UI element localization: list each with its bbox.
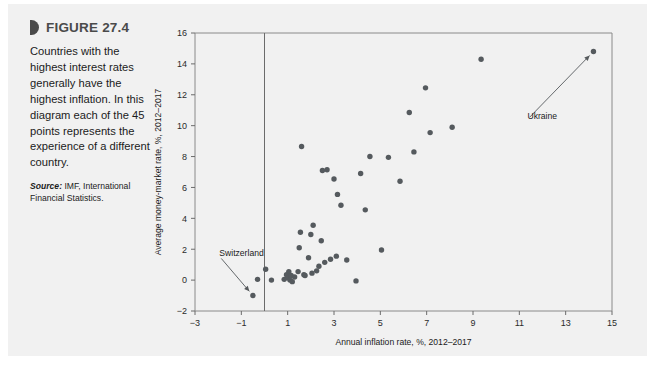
data-point	[308, 232, 313, 237]
data-point	[591, 49, 596, 54]
data-point	[338, 203, 343, 208]
data-point	[322, 260, 327, 265]
data-point	[263, 267, 268, 272]
data-point	[411, 149, 416, 154]
data-point	[335, 192, 340, 197]
ukraine-annotation-leader	[530, 55, 590, 117]
scatter-plot-svg: −3−113579111315−20246810121416Annual inf…	[8, 4, 647, 356]
data-point	[306, 255, 311, 260]
data-point	[353, 278, 358, 283]
figure-card: FIGURE 27.4 Countries with the highest i…	[8, 4, 647, 356]
y-tick-label-3: 4	[182, 214, 187, 224]
ukraine-annotation-label: Ukraine	[527, 111, 557, 121]
x-tick-label-1: −1	[236, 318, 246, 328]
data-point	[255, 277, 260, 282]
data-point	[299, 144, 304, 149]
data-point	[358, 171, 363, 176]
data-point	[250, 293, 255, 298]
data-point	[363, 207, 368, 212]
y-axis-title: Average money-market rate, %, 2012–2017	[153, 89, 163, 256]
y-tick-label-7: 12	[177, 90, 187, 100]
data-point	[331, 176, 336, 181]
data-point	[316, 264, 321, 269]
x-tick-label-9: 15	[607, 318, 617, 328]
data-point	[320, 168, 325, 173]
data-point	[297, 245, 302, 250]
y-tick-label-0: −2	[177, 306, 187, 316]
data-point	[302, 273, 307, 278]
data-point	[423, 85, 428, 90]
data-point	[449, 125, 454, 130]
y-tick-label-5: 8	[182, 152, 187, 162]
data-point	[344, 257, 349, 262]
data-point	[328, 257, 333, 262]
data-point	[295, 269, 300, 274]
y-tick-label-9: 16	[177, 28, 187, 38]
y-tick-label-6: 10	[177, 121, 187, 131]
x-tick-label-4: 5	[378, 318, 383, 328]
data-point	[269, 277, 274, 282]
scatter-chart: −3−113579111315−20246810121416Annual inf…	[8, 4, 647, 356]
x-tick-label-5: 7	[424, 318, 429, 328]
data-point	[310, 223, 315, 228]
switzerland-annotation-leader	[221, 258, 249, 291]
data-point	[367, 154, 372, 159]
data-point	[324, 167, 329, 172]
data-point	[290, 279, 295, 284]
data-point	[298, 230, 303, 235]
x-tick-label-0: −3	[190, 318, 200, 328]
x-axis-title: Annual inflation rate, %, 2012–2017	[335, 337, 471, 347]
plot-frame	[195, 33, 612, 311]
switzerland-annotation-label: Switzerland	[219, 248, 264, 258]
x-tick-label-7: 11	[515, 318, 524, 328]
x-tick-label-8: 13	[561, 318, 571, 328]
data-point	[427, 130, 432, 135]
x-tick-label-3: 3	[331, 318, 336, 328]
y-tick-label-4: 6	[182, 183, 187, 193]
data-point	[386, 155, 391, 160]
data-point	[407, 110, 412, 115]
x-tick-label-6: 9	[470, 318, 475, 328]
x-tick-label-2: 1	[285, 318, 290, 328]
data-point	[309, 270, 314, 275]
data-point	[319, 238, 324, 243]
data-point	[397, 179, 402, 184]
data-point	[379, 247, 384, 252]
y-tick-label-2: 2	[182, 245, 187, 255]
y-tick-label-8: 14	[177, 59, 187, 69]
data-point	[292, 274, 297, 279]
data-point	[334, 253, 339, 258]
y-tick-label-1: 0	[182, 275, 187, 285]
data-point	[314, 268, 319, 273]
data-point	[478, 57, 483, 62]
